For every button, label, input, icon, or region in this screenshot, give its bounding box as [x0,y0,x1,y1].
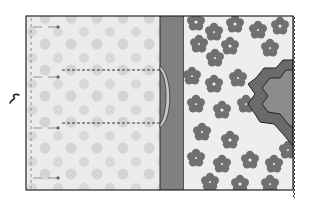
sewing-diagram [0,0,314,198]
floral-panel [183,13,297,193]
fold-symbol-icon [10,94,19,103]
polka-dot-panel [26,16,160,190]
gray-binding-strip [160,16,184,190]
